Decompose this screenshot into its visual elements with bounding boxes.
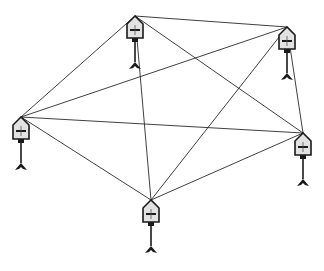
sensor-node-left-icon[interactable] xyxy=(13,117,29,170)
link-topright-bottom xyxy=(151,27,287,200)
sensor-node-top-icon[interactable] xyxy=(127,16,143,69)
link-right-bottom xyxy=(151,133,303,200)
mesh-diagram xyxy=(0,0,324,271)
link-left-bottom xyxy=(21,117,151,200)
sensor-node-right-icon[interactable] xyxy=(295,133,311,186)
sensor-node-top-right-icon[interactable] xyxy=(279,27,295,80)
link-topright-left xyxy=(21,27,287,117)
nodes xyxy=(13,16,311,253)
link-top-right xyxy=(135,16,303,133)
link-top-left xyxy=(21,16,135,117)
link-top-bottom xyxy=(135,16,151,200)
mesh-links xyxy=(21,16,303,200)
link-left-right xyxy=(21,117,303,133)
link-top-topright xyxy=(135,16,287,27)
sensor-node-bottom-icon[interactable] xyxy=(143,200,159,253)
